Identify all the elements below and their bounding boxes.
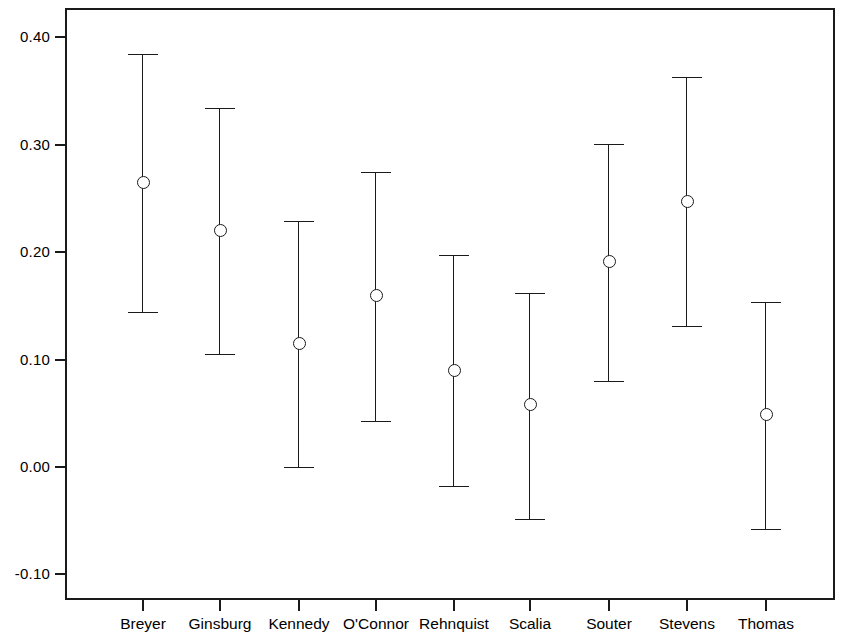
error-bar-cap-upper (361, 172, 391, 173)
y-axis-tick (55, 251, 65, 253)
error-bar-cap-upper (515, 293, 545, 294)
y-axis-tick-label: -0.10 (2, 566, 50, 581)
x-axis-tick (686, 600, 688, 611)
y-axis-tick (55, 36, 65, 38)
error-bar-cap-lower (515, 519, 545, 520)
y-axis-tick-label: 0.40 (2, 29, 50, 44)
y-axis-tick-label: 0.20 (2, 244, 50, 259)
x-axis-tick (453, 600, 455, 611)
error-bar-cap-upper (205, 108, 235, 109)
x-axis-tick (375, 600, 377, 611)
x-axis-tick (219, 600, 221, 611)
error-bar-cap-lower (672, 326, 702, 327)
y-axis-tick (55, 359, 65, 361)
y-axis-tick (55, 573, 65, 575)
error-bar-cap-upper (128, 54, 158, 55)
error-bar-cap-lower (205, 354, 235, 355)
point-marker (137, 176, 150, 189)
point-marker (760, 408, 773, 421)
error-bar-cap-lower (594, 381, 624, 382)
y-axis-tick-label: 0.30 (2, 137, 50, 152)
y-axis-tick (55, 144, 65, 146)
point-marker (293, 337, 306, 350)
error-bar-cap-lower (361, 421, 391, 422)
error-bar-cap-upper (284, 221, 314, 222)
plot-area-frame (65, 8, 835, 600)
error-bar-chart: 0.400.300.200.100.00-0.10 BreyerGinsburg… (0, 0, 845, 640)
point-marker (370, 289, 383, 302)
x-axis-tick-label: Thomas (706, 616, 826, 632)
error-bar-cap-upper (751, 302, 781, 303)
x-axis-tick (142, 600, 144, 611)
error-bar-cap-upper (439, 255, 469, 256)
error-bar-cap-lower (128, 312, 158, 313)
point-marker (603, 255, 616, 268)
y-axis-tick-label: 0.10 (2, 352, 50, 367)
error-bar-cap-lower (439, 486, 469, 487)
error-bar-cap-upper (594, 144, 624, 145)
x-axis-tick (529, 600, 531, 611)
point-marker (524, 398, 537, 411)
y-axis-tick (55, 466, 65, 468)
error-bar-cap-lower (284, 467, 314, 468)
error-bar-cap-upper (672, 77, 702, 78)
point-marker (214, 224, 227, 237)
y-axis-tick-label: 0.00 (2, 459, 50, 474)
x-axis-tick (765, 600, 767, 611)
x-axis-tick (608, 600, 610, 611)
x-axis-tick (298, 600, 300, 611)
point-marker (448, 364, 461, 377)
error-bar-cap-lower (751, 529, 781, 530)
point-marker (681, 195, 694, 208)
